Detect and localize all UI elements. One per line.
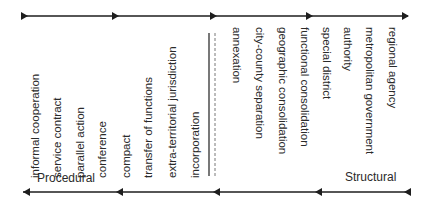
structural-item: metropolitan government: [363, 27, 377, 154]
structural-item: annexation: [230, 27, 244, 83]
structural-item: functional consolidation: [298, 27, 312, 147]
left-arrowhead-icon: [213, 188, 220, 196]
procedural-label: Procedural: [37, 171, 95, 185]
procedural-item: informal cooperation: [28, 74, 42, 178]
right-arrowhead-icon: [210, 12, 217, 20]
continuum-diagram: informal cooperation service contract pa…: [0, 0, 432, 211]
right-arrowhead-icon: [306, 12, 313, 20]
right-arrowhead-icon: [402, 12, 409, 20]
structural-item: authority: [341, 27, 355, 71]
procedural-item: service contract: [50, 97, 64, 178]
structural-item: special district: [320, 27, 334, 99]
structural-item: geographic consolidation: [276, 27, 290, 154]
procedural-item: transfer of functions: [141, 77, 155, 178]
left-arrowhead-icon: [404, 188, 411, 196]
procedural-item: extra-territorial jurisdiction: [165, 46, 179, 178]
structural-label: Structural: [345, 170, 396, 184]
structural-item: city-county separation: [253, 27, 267, 139]
left-arrowhead-icon: [116, 188, 123, 196]
structural-item: regional agency: [386, 27, 400, 108]
left-arrowhead-icon: [315, 188, 322, 196]
right-arrowhead-icon: [21, 12, 28, 20]
right-arrowhead-icon: [112, 12, 119, 20]
procedural-item: conference: [95, 121, 109, 178]
procedural-item: parallel action: [73, 107, 87, 178]
left-arrowhead-icon: [23, 188, 30, 196]
procedural-item: compact: [119, 135, 133, 178]
procedural-item: incorporation: [188, 112, 202, 178]
